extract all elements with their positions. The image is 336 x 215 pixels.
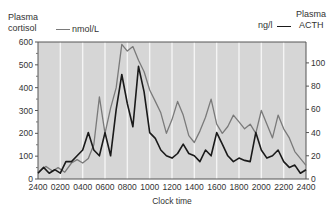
left-tick-label: 200	[19, 128, 33, 138]
chart-svg: 2400020004000600080010001200140016001800…	[0, 0, 336, 215]
x-tick-label: 2000	[252, 182, 271, 192]
right-tick-label: 80	[311, 81, 321, 91]
x-tick-label: 1200	[163, 182, 182, 192]
left-tick-label: 500	[19, 60, 33, 70]
left-tick-label: 100	[19, 151, 33, 161]
right-tick-label: 40	[311, 128, 321, 138]
left-tick-label: 400	[19, 83, 33, 93]
x-tick-label: 0400	[73, 182, 92, 192]
right-tick-label: 100	[311, 58, 325, 68]
x-tick-label: 0800	[118, 182, 137, 192]
x-tick-label: 0600	[96, 182, 115, 192]
x-tick-label: 1600	[207, 182, 226, 192]
left-tick-label: 600	[19, 37, 33, 47]
x-tick-label: 0200	[51, 182, 70, 192]
right-tick-label: 0	[311, 174, 316, 184]
x-tick-label: 1800	[230, 182, 249, 192]
left-tick-label: 0	[28, 174, 33, 184]
x-tick-label: 1000	[140, 182, 159, 192]
x-axis-label: Clock time	[152, 196, 192, 206]
right-tick-label: 60	[311, 104, 321, 114]
right-tick-label: 20	[311, 151, 321, 161]
left-tick-label: 300	[19, 106, 33, 116]
x-tick-label: 1400	[185, 182, 204, 192]
x-tick-label: 2200	[274, 182, 293, 192]
